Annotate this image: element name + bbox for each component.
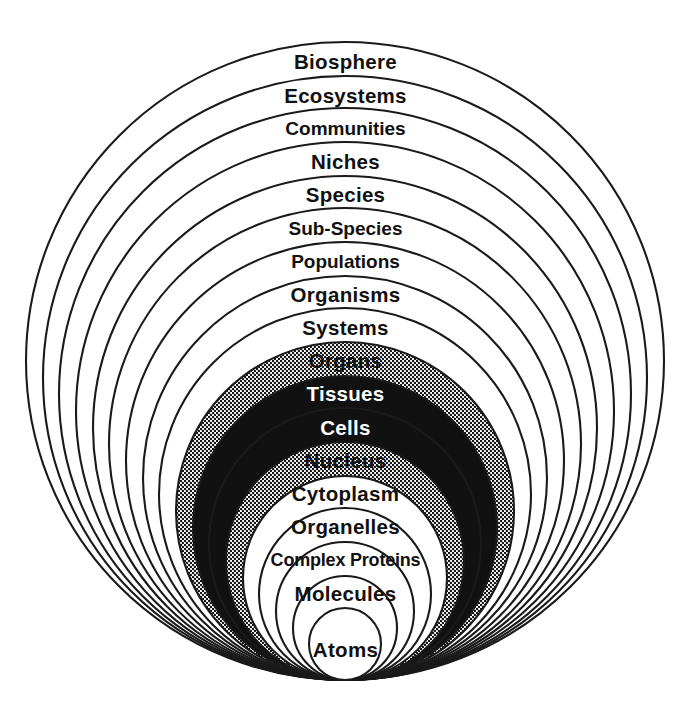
ring-label-systems: Systems <box>0 318 691 339</box>
ring-label-organisms: Organisms <box>0 285 691 306</box>
ring-label-biosphere: Biosphere <box>0 52 691 73</box>
ring-label-tissues: Tissues <box>0 384 691 405</box>
ring-label-cytoplasm: Cytoplasm <box>0 484 691 505</box>
ring-label-cells: Cells <box>0 418 691 439</box>
ring-label-nucleus: Nucleus <box>0 451 691 472</box>
ring-label-molecules: Molecules <box>0 584 691 605</box>
ring-label-species: Species <box>0 185 691 206</box>
ring-label-ecosystems: Ecosystems <box>0 86 691 107</box>
ring-label-organelles: Organelles <box>0 517 691 538</box>
ring-label-sub-species: Sub-Species <box>0 219 691 238</box>
ring-label-organs: Organs <box>0 351 691 372</box>
ring-label-communities: Communities <box>0 119 691 138</box>
ring-label-niches: Niches <box>0 152 691 173</box>
concentric-hierarchy-diagram: BiosphereEcosystemsCommunitiesNichesSpec… <box>0 0 691 712</box>
ring-label-populations: Populations <box>0 252 691 271</box>
ring-label-complex-proteins: Complex Proteins <box>0 551 691 569</box>
ring-label-atoms: Atoms <box>0 640 691 661</box>
